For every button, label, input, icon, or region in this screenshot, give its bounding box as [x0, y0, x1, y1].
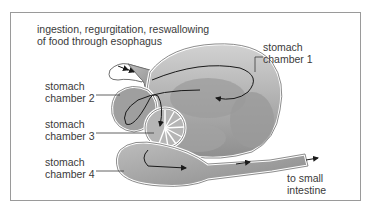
esophagus-label-line2: of food through esophagus [37, 35, 209, 47]
chamber-4-label-line1: stomach [45, 156, 95, 168]
chamber-2-label: stomach chamber 2 [45, 80, 95, 104]
chamber-2-label-line1: stomach [45, 80, 95, 92]
small-intestine-label: to small intestine [287, 172, 326, 196]
chamber-4-label-line2: chamber 4 [45, 168, 95, 180]
small-intestine-label-line2: intestine [287, 184, 326, 196]
chamber-1-label: stomach chamber 1 [263, 41, 313, 65]
esophagus-label: ingestion, regurgitation, reswallowing o… [37, 23, 209, 47]
chamber-1-label-line2: chamber 1 [263, 53, 313, 65]
chamber-2-label-line2: chamber 2 [45, 92, 95, 104]
chamber-3-label: stomach chamber 3 [45, 118, 95, 142]
chamber-3-label-line2: chamber 3 [45, 130, 95, 142]
small-intestine-label-line1: to small [287, 172, 326, 184]
chamber-1-label-line1: stomach [263, 41, 313, 53]
chamber-4-label: stomach chamber 4 [45, 156, 95, 180]
chamber-3-label-line1: stomach [45, 118, 95, 130]
esophagus-label-line1: ingestion, regurgitation, reswallowing [37, 23, 209, 35]
